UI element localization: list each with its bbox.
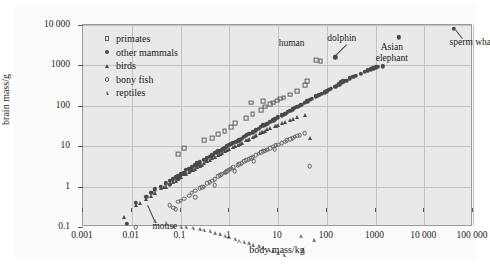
data-point-bony-fish — [308, 164, 313, 169]
legend-item-other-mammals[interactable]: other mammals — [100, 46, 178, 60]
data-point-primates — [261, 99, 266, 104]
data-point-primates — [295, 89, 300, 94]
y-tick — [78, 146, 83, 147]
y-tick — [78, 187, 83, 188]
data-point-other-mammals — [298, 104, 302, 108]
y-tick — [78, 227, 83, 228]
data-point-primates — [288, 92, 293, 97]
data-point-primates — [210, 136, 215, 141]
legend-label: bony fish — [116, 74, 154, 85]
y-tick-label: 0.1 — [14, 221, 70, 231]
data-point-reptiles — [299, 234, 303, 238]
data-point-birds — [210, 156, 214, 160]
annotation-leader-line — [147, 204, 155, 220]
annotation-dolphin: dolphin — [327, 33, 356, 43]
data-point-birds — [291, 117, 295, 121]
filled-triangle-icon — [100, 64, 114, 68]
data-point-other-mammals — [281, 113, 285, 117]
legend-item-bony-fish[interactable]: bony fish — [100, 73, 178, 87]
data-point-other-mammals — [308, 98, 312, 102]
data-point-birds — [149, 194, 153, 198]
data-point-bony-fish — [233, 169, 238, 174]
data-point-primates — [244, 116, 249, 121]
x-tick — [472, 208, 473, 212]
x-tick-label: 0.01 — [122, 230, 139, 240]
y-tick — [78, 25, 83, 26]
annotation-human: human — [279, 38, 305, 48]
data-point-birds — [171, 180, 175, 184]
data-point-birds — [218, 152, 222, 156]
data-point-bony-fish — [133, 225, 138, 230]
data-point-primates — [201, 138, 206, 143]
data-point-other-mammals — [341, 79, 345, 83]
x-tick — [82, 208, 83, 212]
data-point-other-mammals — [397, 35, 401, 39]
data-point-other-mammals — [263, 123, 267, 127]
data-point-reptiles — [208, 229, 212, 233]
data-point-other-mammals — [334, 84, 338, 88]
data-point-bony-fish — [193, 195, 198, 200]
data-point-birds — [144, 197, 148, 201]
legend: primatesother mammalsbirdsbony fishrepti… — [100, 32, 178, 100]
legend-item-primates[interactable]: primates — [100, 32, 178, 46]
y-tick-label: 10 — [14, 140, 70, 150]
data-point-birds — [253, 134, 257, 138]
data-point-bony-fish — [237, 162, 242, 167]
x-tick — [131, 208, 132, 212]
data-point-primates — [182, 146, 187, 151]
data-point-other-mammals — [315, 94, 319, 98]
data-point-primates — [176, 151, 181, 156]
annotation-sperm-whale: sperm whale — [450, 37, 490, 47]
data-point-reptiles — [218, 232, 222, 236]
data-point-other-mammals — [380, 64, 384, 68]
y-gridline — [83, 187, 471, 188]
x-tick — [277, 208, 278, 212]
legend-item-reptiles[interactable]: reptiles — [100, 86, 178, 100]
x-axis-title: body mass/kg — [82, 244, 472, 255]
data-point-reptiles — [184, 225, 188, 229]
y-axis-title: brain mass/g — [0, 74, 11, 125]
data-point-other-mammals — [366, 68, 370, 72]
data-point-reptiles — [191, 226, 195, 230]
x-gridline — [327, 25, 328, 225]
data-point-other-mammals — [292, 106, 296, 110]
data-point-other-mammals — [125, 222, 129, 226]
data-point-birds — [295, 115, 299, 119]
data-point-birds — [200, 163, 204, 167]
data-point-birds — [303, 113, 307, 117]
figure-canvas: humandolphinAsianelephantsperm whalemous… — [14, 6, 476, 258]
data-point-birds — [233, 144, 237, 148]
legend-item-birds[interactable]: birds — [100, 59, 178, 73]
data-point-primates — [263, 104, 268, 109]
data-point-birds — [308, 136, 312, 140]
legend-label: reptiles — [116, 87, 145, 98]
open-circle-icon — [100, 77, 114, 82]
data-point-other-mammals — [272, 117, 276, 121]
y-gridline — [83, 25, 471, 26]
y-tick-label: 1000 — [14, 59, 70, 69]
legend-label: primates — [116, 33, 150, 44]
data-point-other-mammals — [327, 88, 331, 92]
data-point-reptiles — [312, 238, 316, 242]
data-point-primates — [222, 128, 227, 133]
data-point-primates — [216, 132, 221, 137]
annotation-asian-elephant: Asianelephant — [376, 42, 408, 63]
x-tick-label: 100 000 — [457, 230, 488, 240]
data-point-birds — [162, 185, 166, 189]
x-gridline — [424, 25, 425, 225]
data-point-primates — [281, 95, 286, 100]
data-point-primates — [250, 112, 255, 117]
data-point-primates — [249, 100, 254, 105]
data-point-bony-fish — [218, 173, 223, 178]
x-tick-label: 1000 — [365, 230, 384, 240]
data-point-bony-fish — [212, 183, 217, 188]
x-tick — [228, 208, 229, 212]
data-point-reptiles — [202, 228, 206, 232]
data-point-birds — [263, 129, 267, 133]
data-point-bony-fish — [244, 158, 249, 163]
data-point-birds — [280, 121, 284, 125]
data-point-birds — [138, 201, 142, 205]
data-point-bony-fish — [263, 148, 268, 153]
data-point-bony-fish — [224, 170, 229, 175]
data-point-birds — [246, 138, 250, 142]
